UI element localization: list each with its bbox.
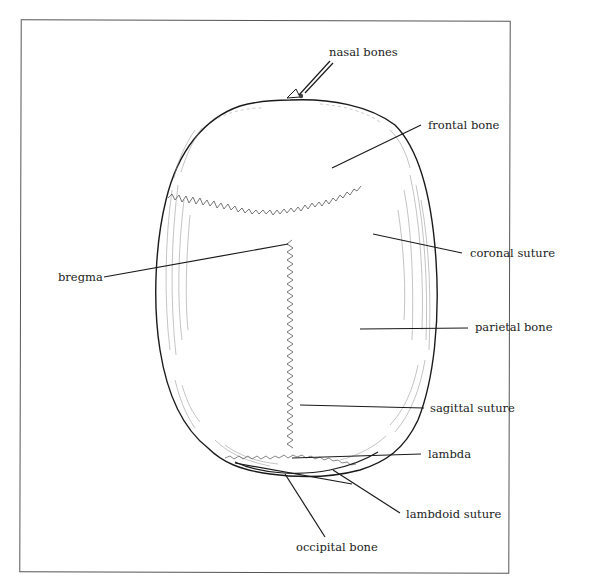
- hatching-right: [340, 130, 430, 460]
- sagittal-suture-line: [287, 240, 293, 448]
- label-lambdoid-suture: lambdoid suture: [406, 509, 501, 521]
- leader-occipital-bone: [285, 474, 325, 537]
- hatching-left: [166, 128, 278, 466]
- leader-bregma: [104, 244, 288, 277]
- leader-parietal-bone: [360, 328, 468, 329]
- skull-outline: [156, 100, 437, 477]
- leader-lambdoid-1: [235, 463, 352, 484]
- leader-nasal-bones: [299, 61, 330, 95]
- label-sagittal-suture: sagittal suture: [430, 403, 515, 415]
- label-nasal-bones: nasal bones: [329, 47, 398, 59]
- leader-lambdoid-suture: [333, 470, 400, 513]
- label-lambda: lambda: [428, 449, 471, 461]
- leader-sagittal-suture: [300, 405, 424, 408]
- label-bregma: bregma: [58, 272, 103, 284]
- label-frontal-bone: frontal bone: [428, 120, 499, 132]
- label-coronal-suture: coronal suture: [470, 248, 555, 260]
- label-parietal-bone: parietal bone: [475, 322, 553, 334]
- leader-frontal-bone: [332, 125, 421, 168]
- label-occipital-bone: occipital bone: [296, 542, 378, 554]
- leader-lines: [104, 61, 468, 537]
- skull-illustration: [0, 0, 605, 585]
- coronal-suture-line: [168, 186, 361, 215]
- leader-coronal-suture: [373, 234, 462, 253]
